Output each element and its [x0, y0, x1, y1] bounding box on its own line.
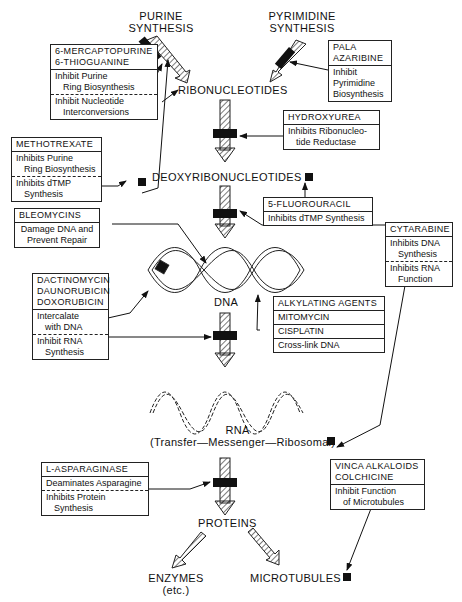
asparaginase-box: L-ASPARAGINASE Deaminates Asparagine Inh…	[41, 462, 149, 516]
cytarabine-effect-1: Inhibits DNA Synthesis	[386, 237, 452, 261]
pala-link	[290, 62, 328, 70]
enzymes-label: ENZYMES (etc.)	[146, 572, 206, 596]
mp-effect1-line1: Inhibit Purine	[55, 71, 153, 82]
cyt-effect2-line2: Function	[390, 274, 448, 285]
cytarabine-box: CYTARABINE Inhibits DNA Synthesis Inhibi…	[385, 222, 453, 287]
mtx-to-deoxy-link	[102, 181, 126, 186]
pala-effect-line2: Pyrimidine	[333, 78, 387, 89]
fluorouracil-effect: Inhibits dTMP Synthesis	[264, 212, 372, 225]
purine-synthesis-label: PURINE SYNTHESIS	[126, 10, 196, 34]
enzymes-label-line1: ENZYMES	[146, 572, 206, 584]
mercaptopurine-title-line1: 6-MERCAPTOPURINE	[55, 46, 153, 57]
fluorouracil-title: 5-FLUOROURACIL	[264, 198, 372, 212]
deoxyribonucleotides-label: DEOXYRIBONUCLEOTIDES	[152, 171, 302, 183]
asparaginase-effect-1: Deaminates Asparagine	[42, 477, 148, 490]
mp-effect1-line2: Ring Biosynthesis	[55, 82, 153, 93]
pala-effect-line1: Inhibit	[333, 67, 387, 78]
ribo-to-deoxy-arrow	[213, 100, 237, 162]
dactinomycin-title-line2: DAUNORUBICIN	[37, 286, 104, 297]
alkylating-row-cisplatin: CISPLATIN	[274, 324, 384, 338]
hydroxyurea-effect: Inhibits Ribonucleo- tide Reductase	[284, 125, 379, 149]
vinca-link	[347, 506, 372, 570]
bleo-effect-line1: Damage DNA and	[19, 224, 95, 235]
mercaptopurine-title: 6-MERCAPTOPURINE 6-THIOGUANINE	[51, 45, 157, 70]
mp-effect2-line2: Interconversions	[55, 107, 153, 118]
dactinomycin-intercalate-link	[108, 291, 148, 318]
ribonucleotides-label: RIBONUCLEOTIDES	[178, 84, 288, 96]
alkylating-row-mitomycin: MITOMYCIN	[274, 311, 384, 324]
purine-label-line2: SYNTHESIS	[126, 22, 196, 34]
mtx-effect2-line1: Inhibits dTMP	[16, 178, 97, 189]
hydroxyurea-box: HYDROXYUREA Inhibits Ribonucleo- tide Re…	[283, 110, 380, 150]
dna-double-helix	[148, 248, 304, 293]
vinca-alkaloids-box: VINCA ALKALOIDS COLCHICINE Inhibit Funct…	[330, 459, 425, 510]
cytarabine-effect-2: Inhibits RNA Function	[386, 261, 452, 286]
asparaginase-link	[148, 482, 210, 489]
vinca-effect: Inhibit Function of Microtubules	[331, 485, 424, 509]
dactinomycin-box: DACTINOMYCIN DAUNORUBICIN DOXORUBICIN In…	[32, 273, 109, 360]
bleomycins-title: BLEOMYCINS	[15, 209, 99, 223]
hu-effect-line1: Inhibits Ribonucleo-	[288, 126, 375, 137]
pala-effect: Inhibit Pyrimidine Biosynthesis	[329, 66, 391, 101]
vinca-title-line2: COLCHICINE	[335, 472, 420, 483]
methotrexate-effect-1: Inhibits Purine Ring Biosynthesis	[12, 152, 101, 176]
pala-effect-line3: Biosynthesis	[333, 89, 387, 100]
mercaptopurine-box: 6-MERCAPTOPURINE 6-THIOGUANINE Inhibit P…	[50, 44, 158, 120]
cytarabine-title: CYTARABINE	[386, 223, 452, 237]
mp-effect2-line1: Inhibit Nucleotide	[55, 96, 153, 107]
mtx-effect1-line1: Inhibits Purine	[16, 153, 97, 164]
cyt-effect2-line1: Inhibits RNA	[390, 263, 448, 274]
dact-effect1-line2: with DNA	[37, 322, 104, 333]
vinca-title-line1: VINCA ALKALOIDS	[335, 461, 420, 472]
rna-label-line1: RNA	[150, 424, 325, 436]
mtx-effect1-line2: Ring Biosynthesis	[16, 164, 97, 175]
dactinomycin-effect-2: Inhibit RNA Synthesis	[33, 334, 108, 359]
dactinomycin-title-line3: DOXORUBICIN	[37, 297, 104, 308]
asp-effect2-line2: Synthesis	[46, 503, 144, 514]
dna-to-rna-arrow	[213, 313, 237, 367]
dna-label: DNA	[214, 296, 238, 308]
rna-to-protein-arrow	[213, 458, 237, 515]
pala-title-line2: AZARIBINE	[333, 53, 387, 64]
protein-to-enzymes-arrow	[172, 532, 206, 568]
enzymes-label-line2: (etc.)	[146, 584, 206, 596]
asp-effect2-line1: Inhibits Protein	[46, 492, 144, 503]
dactinomycin-title-line1: DACTINOMYCIN	[37, 275, 104, 286]
purine-label-line1: PURINE	[126, 10, 196, 22]
bleo-effect-line2: Prevent Repair	[19, 235, 95, 246]
methotrexate-box: METHOTREXATE Inhibits Purine Ring Biosyn…	[11, 137, 102, 202]
pyrimidine-flow-arrow	[270, 40, 306, 82]
deoxy-to-dna-arrow	[213, 186, 237, 238]
cyt-effect1-line1: Inhibits DNA	[390, 238, 448, 249]
microtubules-label: MICROTUBULES	[250, 572, 341, 584]
proteins-label: PROTEINS	[198, 517, 257, 529]
hydroxyurea-title: HYDROXYUREA	[284, 111, 379, 125]
pala-box: PALA AZARIBINE Inhibit Pyrimidine Biosyn…	[328, 40, 392, 102]
cyt-effect1-line2: Synthesis	[390, 249, 448, 260]
mercaptopurine-effect-2: Inhibit Nucleotide Interconversions	[51, 94, 157, 119]
fluorouracil-box: 5-FLUOROURACIL Inhibits dTMP Synthesis	[263, 197, 373, 226]
rna-types-label: (Transfer—Messenger—Ribosomal)	[150, 436, 325, 448]
dact-effect2-line1: Inhibit RNA	[37, 336, 104, 347]
rna-label: RNA (Transfer—Messenger—Ribosomal)	[150, 424, 325, 448]
methotrexate-title: METHOTREXATE	[12, 138, 101, 152]
bleomycins-effect: Damage DNA and Prevent Repair	[15, 223, 99, 247]
dact-effect1-line1: Intercalate	[37, 311, 104, 322]
dactinomycin-effect-1: Intercalate with DNA	[33, 310, 108, 334]
alkylating-title: ALKYLATING AGENTS	[274, 297, 384, 311]
alkylating-link	[257, 295, 260, 330]
mercaptopurine-effect-1: Inhibit Purine Ring Biosynthesis	[51, 70, 157, 94]
dact-effect2-line2: Synthesis	[37, 347, 104, 358]
pyrimidine-label-line1: PYRIMIDINE	[262, 10, 342, 22]
pyrimidine-label-line2: SYNTHESIS	[262, 22, 342, 34]
alkylating-row-crosslink: Cross-link DNA	[274, 338, 384, 352]
bleomycins-box: BLEOMYCINS Damage DNA and Prevent Repair	[14, 208, 100, 248]
pyrimidine-synthesis-label: PYRIMIDINE SYNTHESIS	[262, 10, 342, 34]
vinca-effect-line2: of Microtubules	[335, 497, 420, 508]
pala-title-line1: PALA	[333, 42, 387, 53]
dactinomycin-title: DACTINOMYCIN DAUNORUBICIN DOXORUBICIN	[33, 274, 108, 310]
mercaptopurine-title-line2: 6-THIOGUANINE	[55, 57, 153, 68]
protein-to-microtubules-arrow	[248, 528, 279, 565]
alkylating-agents-box: ALKYLATING AGENTS MITOMYCIN CISPLATIN Cr…	[273, 296, 385, 353]
vinca-effect-line1: Inhibit Function	[335, 486, 420, 497]
